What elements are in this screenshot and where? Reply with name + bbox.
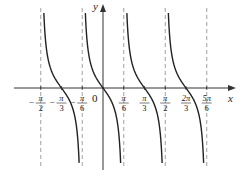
svg-text:π: π [80,93,85,103]
x-tick-label: 5π6 [202,93,212,113]
svg-text:−: − [29,97,34,107]
tick-labels: π2−π3−π6−π6π3π22π35π6 [29,86,212,113]
x-axis-arrow-icon [228,85,236,91]
y-axis-arrow-icon [100,4,106,12]
svg-text:−: − [49,97,54,107]
svg-text:3: 3 [184,103,188,113]
svg-text:π: π [163,93,168,103]
svg-text:6: 6 [80,103,84,113]
svg-text:3: 3 [142,103,146,113]
svg-text:π: π [142,93,147,103]
svg-text:6: 6 [122,103,126,113]
svg-text:5π: 5π [202,93,211,103]
svg-text:−: − [70,97,75,107]
svg-text:π: π [39,93,44,103]
x-tick-label: π6 [119,93,129,113]
svg-text:6: 6 [205,103,209,113]
origin-label: 0 [92,92,98,104]
x-tick-label: π3 [139,93,149,113]
svg-text:π: π [122,93,127,103]
x-tick-label: π3− [49,93,66,113]
x-tick-label: π2 [160,93,170,113]
x-tick-label: π2− [29,93,46,113]
svg-text:2: 2 [39,103,43,113]
y-axis-label: y [92,0,98,12]
svg-text:3: 3 [59,103,63,113]
x-tick-label: 2π3 [181,93,191,113]
svg-text:2π: 2π [182,93,191,103]
x-axis-label: x [227,92,233,104]
svg-text:2: 2 [163,103,167,113]
chart: π2−π3−π6−π6π3π22π35π6 x y 0 [0,0,248,178]
svg-text:π: π [59,93,64,103]
